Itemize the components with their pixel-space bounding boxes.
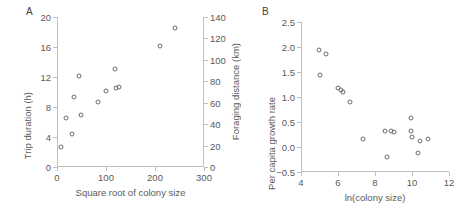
panel-b-y-tick <box>297 122 301 123</box>
panel-b-x-tick <box>301 172 302 176</box>
data-point <box>383 129 388 134</box>
panel-a-x-tick-label: 300 <box>196 172 212 183</box>
panel-b-x-tick-label: 12 <box>444 177 455 188</box>
panel-b: B Per capita growth rate ln(colony size)… <box>238 0 476 216</box>
panel-b-plot-area: Per capita growth rate ln(colony size) 4… <box>301 22 449 172</box>
panel-b-y-tick-label: 1.0 <box>282 92 295 103</box>
panel-a-y-tick <box>53 137 57 138</box>
data-point <box>316 47 321 52</box>
panel-a-y2-axis-line <box>203 17 204 167</box>
panel-b-y-tick <box>297 172 301 173</box>
data-point <box>410 134 415 139</box>
panel-a-y2-tick-label: 80 <box>210 76 221 87</box>
panel-a-x-tick-label: 100 <box>98 172 114 183</box>
panel-a-y2-tick-label: 140 <box>210 12 226 23</box>
panel-b-x-tick-label: 10 <box>407 177 418 188</box>
panel-b-y-tick <box>297 97 301 98</box>
panel-a-y2-tick <box>204 103 208 104</box>
panel-a-y-tick-label: 0 <box>46 162 51 173</box>
panel-a-y-tick <box>53 167 57 168</box>
data-point <box>385 154 390 159</box>
panel-a-y-tick <box>53 17 57 18</box>
panel-b-label: B <box>262 6 269 17</box>
panel-b-x-tick-label: 6 <box>335 177 340 188</box>
panel-b-y-tick-label: 0.0 <box>282 142 295 153</box>
data-point <box>391 129 396 134</box>
panel-a-y2-tick <box>204 38 208 39</box>
panel-b-y-tick-label: 1.5 <box>282 67 295 78</box>
data-point <box>96 99 101 104</box>
data-point <box>103 88 108 93</box>
panel-b-x-axis-title: ln(colony size) <box>345 192 406 203</box>
panel-a-y2-tick-label: 0 <box>210 162 215 173</box>
panel-a-y2-tick-label: 40 <box>210 119 221 130</box>
panel-a-y2-tick-label: 120 <box>210 33 226 44</box>
panel-b-x-tick <box>412 172 413 176</box>
data-point <box>58 144 63 149</box>
panel-a-y-tick <box>53 107 57 108</box>
data-point <box>340 90 345 95</box>
panel-b-y-tick-label: −0.5 <box>276 167 295 178</box>
panel-b-x-tick <box>449 172 450 176</box>
panel-b-y-tick-label: 0.5 <box>282 117 295 128</box>
data-point <box>323 52 328 57</box>
panel-a-y-tick-label: 16 <box>40 42 51 53</box>
data-point <box>77 74 82 79</box>
panel-a-y-tick-label: 12 <box>40 72 51 83</box>
data-point <box>415 150 420 155</box>
panel-a-y2-tick-label: 60 <box>210 97 221 108</box>
panel-a-y-tick-label: 8 <box>46 102 51 113</box>
panel-b-y-axis-line <box>301 22 302 172</box>
panel-a-plot-area: Trip duration (h) Foraging distance (km)… <box>57 17 204 167</box>
data-point <box>71 95 76 100</box>
data-point <box>63 116 68 121</box>
panel-b-y-tick-label: 2.5 <box>282 17 295 28</box>
panel-b-x-tick <box>338 172 339 176</box>
panel-a-y-tick-label: 20 <box>40 12 51 23</box>
panel-a-label: A <box>26 6 33 17</box>
panel-a-y2-tick-label: 100 <box>210 54 226 65</box>
panel-a-y2-tick-label: 20 <box>210 140 221 151</box>
panel-a-y-tick-label: 4 <box>46 132 51 143</box>
panel-b-y-tick-label: 2.0 <box>282 42 295 53</box>
data-point <box>425 137 430 142</box>
panel-a: A Trip duration (h) Foraging distance (k… <box>0 0 238 216</box>
data-point <box>158 44 163 49</box>
panel-a-y2-tick <box>204 124 208 125</box>
panel-a-y-axis-title: Trip duration (h) <box>22 92 33 159</box>
panel-a-y-tick <box>53 77 57 78</box>
panel-a-x-axis-line <box>57 166 204 167</box>
data-point <box>348 99 353 104</box>
data-point <box>113 66 118 71</box>
data-point <box>360 137 365 142</box>
data-point <box>70 132 75 137</box>
panel-a-y2-tick <box>204 167 208 168</box>
data-point <box>409 129 414 134</box>
panel-a-y2-tick <box>204 60 208 61</box>
data-point <box>409 116 414 121</box>
panel-b-x-tick-label: 4 <box>298 177 303 188</box>
data-point <box>317 72 322 77</box>
panel-a-y2-tick <box>204 81 208 82</box>
data-point <box>418 138 423 143</box>
figure: A Trip duration (h) Foraging distance (k… <box>0 0 476 216</box>
panel-b-y-tick <box>297 47 301 48</box>
panel-a-y2-tick <box>204 146 208 147</box>
panel-a-x-axis-title: Square root of colony size <box>76 187 186 198</box>
panel-b-y-tick <box>297 22 301 23</box>
panel-a-x-tick <box>57 167 58 171</box>
panel-b-y-tick <box>297 147 301 148</box>
panel-a-x-tick <box>155 167 156 171</box>
panel-a-y2-tick <box>204 17 208 18</box>
panel-b-x-tick <box>375 172 376 176</box>
data-point <box>117 84 122 89</box>
panel-b-y-tick <box>297 72 301 73</box>
data-point <box>173 26 178 31</box>
panel-a-x-tick-label: 200 <box>147 172 163 183</box>
data-point <box>79 113 84 118</box>
panel-a-x-tick <box>106 167 107 171</box>
panel-b-x-tick-label: 8 <box>372 177 377 188</box>
panel-a-y-tick <box>53 47 57 48</box>
panel-a-x-tick-label: 0 <box>54 172 59 183</box>
